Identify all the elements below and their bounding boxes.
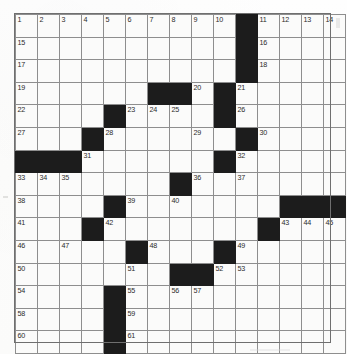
- crossword-cell[interactable]: [126, 173, 148, 196]
- crossword-cell[interactable]: [82, 173, 104, 196]
- crossword-cell[interactable]: 18: [258, 60, 280, 83]
- crossword-cell[interactable]: [192, 37, 214, 60]
- crossword-cell[interactable]: [126, 82, 148, 105]
- crossword-cell[interactable]: 4: [82, 15, 104, 38]
- crossword-cell[interactable]: [324, 308, 346, 331]
- crossword-cell[interactable]: 60: [16, 331, 38, 354]
- crossword-cell[interactable]: 33: [16, 173, 38, 196]
- crossword-cell[interactable]: [258, 308, 280, 331]
- crossword-cell[interactable]: 28: [104, 127, 126, 150]
- crossword-cell[interactable]: [38, 218, 60, 241]
- crossword-grid-container[interactable]: 1234567891011121314151617181920212223242…: [15, 14, 346, 354]
- crossword-cell[interactable]: [324, 286, 346, 309]
- crossword-cell[interactable]: 34: [38, 173, 60, 196]
- crossword-cell[interactable]: [192, 195, 214, 218]
- crossword-cell[interactable]: [280, 240, 302, 263]
- crossword-cell[interactable]: [60, 105, 82, 128]
- crossword-cell[interactable]: 50: [16, 263, 38, 286]
- crossword-cell[interactable]: [280, 331, 302, 354]
- crossword-cell[interactable]: [148, 37, 170, 60]
- crossword-cell[interactable]: [302, 173, 324, 196]
- crossword-cell[interactable]: [38, 240, 60, 263]
- crossword-cell[interactable]: 7: [148, 15, 170, 38]
- crossword-cell[interactable]: [82, 82, 104, 105]
- crossword-cell[interactable]: 11: [258, 15, 280, 38]
- crossword-cell[interactable]: 20: [192, 82, 214, 105]
- crossword-cell[interactable]: [82, 37, 104, 60]
- crossword-cell[interactable]: [258, 195, 280, 218]
- crossword-cell[interactable]: 30: [258, 127, 280, 150]
- crossword-cell[interactable]: [82, 240, 104, 263]
- crossword-cell[interactable]: [324, 105, 346, 128]
- crossword-cell[interactable]: [192, 218, 214, 241]
- crossword-cell[interactable]: [170, 60, 192, 83]
- crossword-cell[interactable]: [170, 127, 192, 150]
- crossword-cell[interactable]: [82, 195, 104, 218]
- crossword-cell[interactable]: [258, 240, 280, 263]
- crossword-cell[interactable]: [214, 331, 236, 354]
- crossword-cell[interactable]: [148, 195, 170, 218]
- crossword-cell[interactable]: 35: [60, 173, 82, 196]
- crossword-cell[interactable]: 13: [302, 15, 324, 38]
- crossword-cell[interactable]: [82, 331, 104, 354]
- crossword-cell[interactable]: [302, 308, 324, 331]
- crossword-cell[interactable]: 37: [236, 173, 258, 196]
- crossword-cell[interactable]: 25: [170, 105, 192, 128]
- crossword-cell[interactable]: [82, 263, 104, 286]
- crossword-cell[interactable]: [280, 105, 302, 128]
- crossword-cell[interactable]: 42: [104, 218, 126, 241]
- crossword-cell[interactable]: [38, 105, 60, 128]
- crossword-cell[interactable]: [60, 218, 82, 241]
- crossword-cell[interactable]: [60, 263, 82, 286]
- crossword-cell[interactable]: [38, 60, 60, 83]
- crossword-cell[interactable]: [324, 127, 346, 150]
- crossword-cell[interactable]: [192, 150, 214, 173]
- crossword-cell[interactable]: 8: [170, 15, 192, 38]
- crossword-cell[interactable]: [38, 82, 60, 105]
- crossword-cell[interactable]: [148, 150, 170, 173]
- crossword-cell[interactable]: 1: [16, 15, 38, 38]
- crossword-cell[interactable]: [148, 331, 170, 354]
- crossword-cell[interactable]: [214, 286, 236, 309]
- crossword-cell[interactable]: [104, 173, 126, 196]
- crossword-cell[interactable]: 24: [148, 105, 170, 128]
- crossword-cell[interactable]: [258, 286, 280, 309]
- crossword-cell[interactable]: [104, 150, 126, 173]
- crossword-cell[interactable]: [60, 195, 82, 218]
- crossword-cell[interactable]: [280, 286, 302, 309]
- crossword-cell[interactable]: [258, 263, 280, 286]
- crossword-cell[interactable]: [170, 150, 192, 173]
- crossword-cell[interactable]: [302, 105, 324, 128]
- crossword-cell[interactable]: 49: [236, 240, 258, 263]
- crossword-cell[interactable]: [280, 150, 302, 173]
- crossword-cell[interactable]: [280, 263, 302, 286]
- crossword-cell[interactable]: [192, 240, 214, 263]
- crossword-cell[interactable]: [324, 37, 346, 60]
- crossword-cell[interactable]: [302, 127, 324, 150]
- crossword-cell[interactable]: [214, 308, 236, 331]
- crossword-cell[interactable]: [302, 60, 324, 83]
- crossword-cell[interactable]: [214, 218, 236, 241]
- crossword-cell[interactable]: [258, 105, 280, 128]
- crossword-cell[interactable]: [192, 331, 214, 354]
- crossword-cell[interactable]: [38, 308, 60, 331]
- crossword-cell[interactable]: [148, 173, 170, 196]
- crossword-cell[interactable]: 59: [126, 308, 148, 331]
- crossword-cell[interactable]: [38, 286, 60, 309]
- crossword-cell[interactable]: [126, 127, 148, 150]
- crossword-cell[interactable]: [104, 240, 126, 263]
- crossword-cell[interactable]: [60, 127, 82, 150]
- crossword-cell[interactable]: [302, 82, 324, 105]
- crossword-cell[interactable]: [38, 331, 60, 354]
- crossword-cell[interactable]: [280, 82, 302, 105]
- crossword-cell[interactable]: [214, 195, 236, 218]
- crossword-cell[interactable]: [214, 127, 236, 150]
- crossword-cell[interactable]: [126, 150, 148, 173]
- crossword-cell[interactable]: [192, 105, 214, 128]
- crossword-cell[interactable]: 55: [126, 286, 148, 309]
- crossword-cell[interactable]: [280, 60, 302, 83]
- crossword-cell[interactable]: [280, 308, 302, 331]
- crossword-cell[interactable]: 39: [126, 195, 148, 218]
- crossword-cell[interactable]: 51: [126, 263, 148, 286]
- crossword-cell[interactable]: [148, 286, 170, 309]
